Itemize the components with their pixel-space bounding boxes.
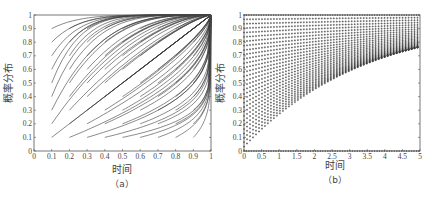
chart-b-y-tick-label: 1: [238, 11, 242, 20]
chart-b-caption: （b）: [323, 175, 347, 185]
chart-a-curve: [123, 15, 212, 124]
chart-a-y-tick-label: 0.2: [23, 119, 33, 128]
chart-b-markers: [243, 14, 420, 152]
chart-b-x-tick-label: 1: [277, 152, 281, 161]
chart-b-y-tick-label: 0.6: [233, 65, 243, 74]
chart-a-y-tick-label: 0.8: [23, 38, 33, 47]
chart-b-x-tick-label: 3.5: [363, 152, 373, 161]
chart-b-y-tick-label: 0.7: [233, 51, 243, 60]
chart-b: 00.511.522.533.544.55 00.10.20.30.40.50.…: [214, 11, 422, 186]
chart-a-x-tick-label: 0.7: [153, 152, 163, 161]
chart-a-x-tick-label: 0.5: [118, 152, 128, 161]
figure: 00.10.20.30.40.50.60.70.80.91 00.10.20.3…: [0, 0, 433, 198]
chart-b-x-tick-label: 3: [348, 152, 352, 161]
chart-a-curve: [105, 15, 211, 137]
chart-a-curves: [52, 15, 211, 137]
chart-b-y-tick-label: 0.8: [233, 38, 243, 47]
chart-b-x-tick-label: 0: [242, 152, 246, 161]
chart-a-caption: （a）: [110, 179, 134, 189]
chart-a-y-tick-label: 1: [28, 11, 32, 20]
chart-b-x-tick-label: 5: [418, 152, 422, 161]
chart-b-y-tick-label: 0.1: [233, 133, 243, 142]
chart-a-y-label: 概率分布: [2, 63, 14, 103]
chart-a-y-tick-label: 0.4: [23, 92, 33, 101]
chart-b-y-tick-label: 0.3: [233, 106, 243, 115]
chart-a-x-tick-label: 0.2: [65, 152, 75, 161]
chart-b-x-tick-label: 2: [313, 152, 317, 161]
chart-a-y-tick-label: 0.5: [23, 79, 33, 88]
chart-b-y-ticks: 00.10.20.30.40.50.60.70.80.91: [233, 11, 420, 156]
chart-b-x-tick-label: 0.5: [257, 152, 267, 161]
chart-a-x-tick-label: 0.8: [171, 152, 181, 161]
chart-b-markers-path: [243, 14, 420, 152]
chart-a-x-tick-label: 0.3: [82, 152, 92, 161]
chart-b-x-tick-label: 4: [383, 152, 387, 161]
chart-b-y-tick-label: 0.5: [233, 79, 243, 88]
chart-b-y-tick-label: 0.9: [233, 24, 243, 33]
chart-b-x-tick-label: 1.5: [292, 152, 302, 161]
chart-a-y-tick-label: 0: [28, 147, 32, 156]
chart-b-y-tick-label: 0: [238, 147, 242, 156]
chart-a-y-tick-label: 0.6: [23, 65, 33, 74]
chart-a-y-ticks: 00.10.20.30.40.50.60.70.80.91: [23, 11, 211, 156]
chart-a-y-tick-label: 0.9: [23, 24, 33, 33]
chart-b-y-tick-label: 0.4: [233, 92, 243, 101]
chart-a-x-tick-label: 0.9: [189, 152, 199, 161]
chart-a-y-tick-label: 0.3: [23, 106, 33, 115]
chart-a-x-tick-label: 0.6: [136, 152, 146, 161]
chart-a-x-tick-label: 0.1: [47, 152, 57, 161]
chart-a-x-tick-label: 0.4: [100, 152, 110, 161]
chart-a-x-tick-label: 1: [209, 152, 213, 161]
chart-b-x-tick-label: 4.5: [398, 152, 408, 161]
chart-b-y-label: 概率分布: [214, 63, 226, 103]
chart-a-x-label: 时间: [112, 163, 132, 175]
chart-b-x-label: 时间: [325, 159, 345, 171]
chart-a-curve: [52, 15, 211, 124]
chart-a-y-tick-label: 0.7: [23, 51, 33, 60]
chart-a-x-tick-label: 0: [32, 152, 36, 161]
chart-b-y-tick-label: 0.2: [233, 119, 243, 128]
chart-a: 00.10.20.30.40.50.60.70.80.91 00.10.20.3…: [2, 11, 213, 190]
chart-a-curve: [52, 15, 211, 97]
chart-a-y-tick-label: 0.1: [23, 133, 33, 142]
